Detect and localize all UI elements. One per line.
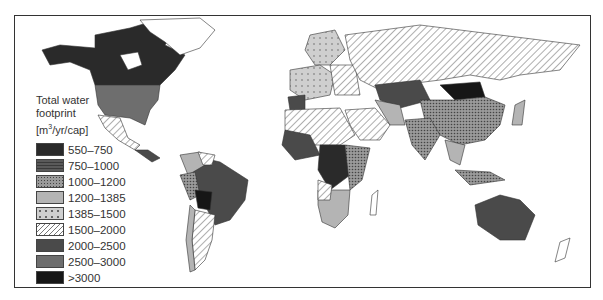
- region-bolivia: [195, 190, 212, 210]
- legend-label: >3000: [68, 272, 100, 284]
- legend-swatch: [36, 143, 64, 156]
- legend-swatch: [36, 159, 64, 172]
- legend: Total water footprint [m3/yr/cap] 550–75…: [36, 94, 126, 286]
- region-australia: [475, 195, 535, 240]
- region-japan: [512, 100, 525, 125]
- legend-swatch: [36, 239, 64, 252]
- legend-swatch: [36, 207, 64, 220]
- legend-label: 750–1000: [68, 160, 119, 172]
- legend-item: 1500–2000: [36, 222, 126, 238]
- legend-item: 1200–1385: [36, 190, 126, 206]
- region-russia: [345, 25, 580, 90]
- legend-label: 1200–1385: [68, 192, 126, 204]
- legend-item: 2500–3000: [36, 254, 126, 270]
- legend-label: 1500–2000: [68, 224, 126, 236]
- legend-label: 1385–1500: [68, 208, 126, 220]
- region-scandinavia: [305, 30, 345, 65]
- region-argentina: [192, 210, 215, 270]
- region-mongolia: [440, 82, 485, 100]
- legend-title-line2: footprint: [36, 107, 126, 120]
- region-new-zealand: [555, 238, 570, 262]
- legend-swatch: [36, 271, 64, 284]
- legend-swatch: [36, 191, 64, 204]
- legend-swatch: [36, 223, 64, 236]
- legend-item: 1385–1500: [36, 206, 126, 222]
- region-indonesia: [455, 170, 505, 185]
- legend-title-line1: Total water: [36, 94, 126, 107]
- legend-item: 1000–1200: [36, 174, 126, 190]
- legend-item: 750–1000: [36, 158, 126, 174]
- legend-swatch: [36, 255, 64, 268]
- legend-label: 2000–2500: [68, 240, 126, 252]
- legend-label: 1000–1200: [68, 176, 126, 188]
- legend-item: 550–750: [36, 142, 126, 158]
- legend-label: 550–750: [68, 144, 113, 156]
- legend-title: Total water footprint [m3/yr/cap]: [36, 94, 126, 137]
- legend-item: 2000–2500: [36, 238, 126, 254]
- legend-swatch: [36, 175, 64, 188]
- region-east-africa: [345, 145, 370, 190]
- region-iberia: [288, 95, 305, 110]
- region-madagascar: [370, 190, 378, 215]
- region-west-europe: [290, 65, 335, 100]
- legend-unit: [m3/yr/cap]: [36, 120, 126, 137]
- legend-label: 2500–3000: [68, 256, 126, 268]
- legend-item: >3000: [36, 270, 126, 286]
